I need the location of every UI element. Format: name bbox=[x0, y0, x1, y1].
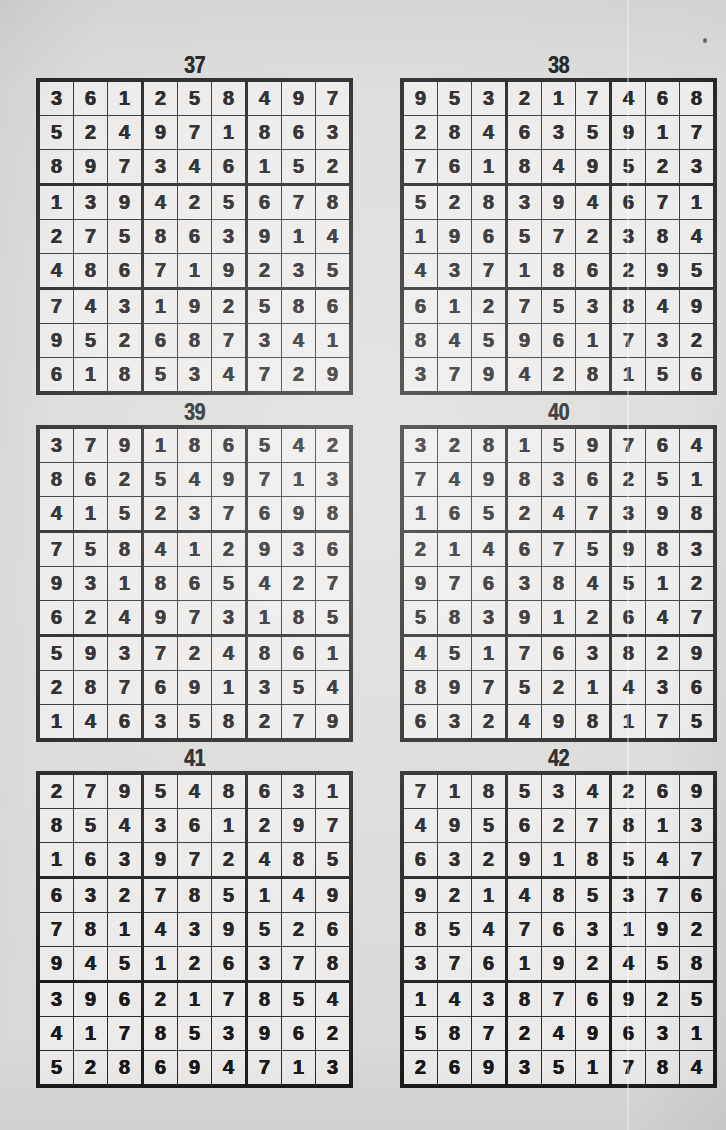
sudoku-cell: 2 bbox=[438, 185, 472, 220]
sudoku-cell: 6 bbox=[316, 913, 352, 947]
sudoku-cell: 2 bbox=[646, 982, 680, 1017]
sudoku-cell: 6 bbox=[646, 773, 680, 809]
sudoku-cell: 9 bbox=[108, 427, 143, 463]
sudoku-cell: 1 bbox=[438, 532, 472, 567]
sudoku-cell: 8 bbox=[680, 947, 716, 982]
puzzle-block-3: 40 3281597647498362511652473982146759839… bbox=[400, 399, 717, 742]
sudoku-cell: 7 bbox=[178, 843, 212, 878]
sudoku-cell: 2 bbox=[212, 532, 247, 567]
sudoku-cell: 1 bbox=[74, 497, 108, 532]
sudoku-cell: 3 bbox=[472, 982, 507, 1017]
sudoku-cell: 7 bbox=[507, 289, 542, 324]
sudoku-cell: 6 bbox=[282, 1017, 316, 1051]
sudoku-cell: 2 bbox=[438, 427, 472, 463]
puzzle-block-0: 37 3612584975249718638973461521394256782… bbox=[36, 52, 353, 395]
sudoku-cell: 2 bbox=[611, 773, 646, 809]
sudoku-cell: 7 bbox=[402, 773, 438, 809]
sudoku-cell: 7 bbox=[38, 289, 74, 324]
sudoku-cell: 2 bbox=[143, 497, 178, 532]
sudoku-cell: 6 bbox=[282, 636, 316, 671]
sudoku-cell: 5 bbox=[472, 809, 507, 843]
sudoku-grid: 3791865428625497134152376987584129369318… bbox=[36, 425, 353, 742]
sudoku-cell: 8 bbox=[507, 982, 542, 1017]
sudoku-cell: 6 bbox=[316, 532, 352, 567]
sudoku-cell: 2 bbox=[74, 116, 108, 150]
sudoku-cell: 8 bbox=[282, 601, 316, 636]
sudoku-cell: 1 bbox=[438, 773, 472, 809]
sudoku-cell: 3 bbox=[178, 913, 212, 947]
sudoku-cell: 1 bbox=[611, 358, 646, 394]
sudoku-cell: 4 bbox=[472, 532, 507, 567]
sudoku-cell: 9 bbox=[212, 913, 247, 947]
sudoku-cell: 6 bbox=[680, 671, 716, 705]
sudoku-cell: 8 bbox=[576, 843, 611, 878]
sudoku-cell: 3 bbox=[680, 809, 716, 843]
sudoku-cell: 1 bbox=[542, 80, 576, 116]
sudoku-cell: 3 bbox=[611, 220, 646, 254]
puzzle-title: 38 bbox=[422, 52, 695, 78]
sudoku-cell: 7 bbox=[316, 80, 352, 116]
sudoku-grid-container: 3281597647498362511652473982146759839763… bbox=[400, 425, 717, 742]
sudoku-cell: 9 bbox=[282, 80, 316, 116]
sudoku-cell: 4 bbox=[542, 150, 576, 185]
sudoku-cell: 5 bbox=[38, 1051, 74, 1087]
sudoku-cell: 4 bbox=[576, 567, 611, 601]
sudoku-cell: 7 bbox=[507, 636, 542, 671]
sudoku-cell: 7 bbox=[576, 80, 611, 116]
puzzle-title: 39 bbox=[58, 399, 331, 425]
sudoku-cell: 4 bbox=[507, 705, 542, 741]
sudoku-cell: 3 bbox=[38, 982, 74, 1017]
sudoku-cell: 9 bbox=[542, 185, 576, 220]
sudoku-cell: 4 bbox=[178, 463, 212, 497]
sudoku-cell: 3 bbox=[316, 463, 352, 497]
sudoku-cell: 3 bbox=[38, 427, 74, 463]
sudoku-cell: 5 bbox=[402, 185, 438, 220]
sudoku-cell: 6 bbox=[611, 601, 646, 636]
sudoku-cell: 9 bbox=[316, 705, 352, 741]
sudoku-cell: 6 bbox=[212, 947, 247, 982]
sudoku-row: 361258497 bbox=[38, 80, 351, 116]
sudoku-row: 163972485 bbox=[38, 843, 351, 878]
sudoku-cell: 8 bbox=[247, 982, 282, 1017]
sudoku-cell: 7 bbox=[316, 567, 352, 601]
sudoku-cell: 8 bbox=[646, 1051, 680, 1087]
sudoku-cell: 3 bbox=[316, 1051, 352, 1087]
sudoku-cell: 8 bbox=[316, 185, 352, 220]
sudoku-cell: 9 bbox=[74, 636, 108, 671]
sudoku-cell: 8 bbox=[247, 116, 282, 150]
sudoku-row: 146358279 bbox=[38, 705, 351, 741]
sudoku-cell: 4 bbox=[282, 427, 316, 463]
sudoku-row: 718534269 bbox=[402, 773, 715, 809]
sudoku-cell: 1 bbox=[282, 463, 316, 497]
sudoku-cell: 1 bbox=[143, 947, 178, 982]
sudoku-cell: 4 bbox=[282, 324, 316, 358]
sudoku-cell: 5 bbox=[178, 705, 212, 741]
sudoku-cell: 2 bbox=[542, 671, 576, 705]
sudoku-cell: 8 bbox=[402, 913, 438, 947]
sudoku-row: 743192586 bbox=[38, 289, 351, 324]
sudoku-cell: 5 bbox=[576, 878, 611, 913]
sudoku-row: 417853962 bbox=[38, 1017, 351, 1051]
sudoku-cell: 1 bbox=[472, 636, 507, 671]
sudoku-cell: 9 bbox=[542, 947, 576, 982]
sudoku-cell: 7 bbox=[680, 843, 716, 878]
sudoku-cell: 9 bbox=[646, 254, 680, 289]
sudoku-cell: 2 bbox=[178, 947, 212, 982]
sudoku-row: 952687341 bbox=[38, 324, 351, 358]
sudoku-row: 143876925 bbox=[402, 982, 715, 1017]
sudoku-cell: 7 bbox=[507, 913, 542, 947]
sudoku-grid-container: 2795486318543612971639724856327851497814… bbox=[36, 771, 353, 1088]
sudoku-grid-container: 9532174682846359177618495235283946711965… bbox=[400, 78, 717, 395]
sudoku-cell: 1 bbox=[282, 220, 316, 254]
sudoku-cell: 6 bbox=[74, 80, 108, 116]
sudoku-cell: 1 bbox=[38, 705, 74, 741]
sudoku-cell: 5 bbox=[680, 254, 716, 289]
sudoku-cell: 8 bbox=[402, 324, 438, 358]
sudoku-cell: 4 bbox=[542, 497, 576, 532]
sudoku-row: 976384512 bbox=[402, 567, 715, 601]
sudoku-cell: 2 bbox=[38, 773, 74, 809]
sudoku-cell: 2 bbox=[472, 705, 507, 741]
sudoku-cell: 7 bbox=[542, 532, 576, 567]
sudoku-cell: 9 bbox=[402, 80, 438, 116]
sudoku-cell: 5 bbox=[611, 843, 646, 878]
